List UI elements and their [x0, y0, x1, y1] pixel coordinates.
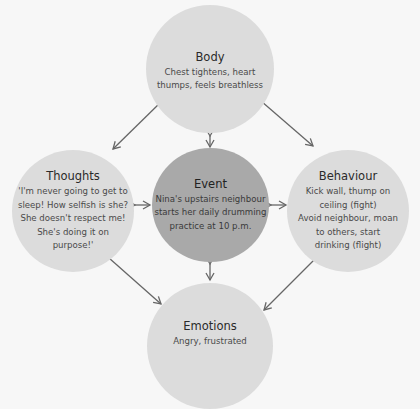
node-body: Body Chest tightens, heart thumps, feels… — [146, 5, 274, 133]
node-event-text: Nina's upstairs neighbour starts her dai… — [154, 193, 266, 234]
arrow-body-behaviour — [261, 101, 313, 146]
arrow-body-thoughts — [113, 100, 163, 149]
node-event-title: Event — [194, 177, 227, 191]
arrow-behaviour-emotions — [264, 258, 316, 310]
arrow-thoughts-emotions — [109, 258, 161, 304]
node-thoughts-text: 'I'm never going to get to sleep! How se… — [18, 185, 128, 253]
node-body-title: Body — [195, 50, 224, 64]
node-emotions: Emotions Angry, frustrated — [147, 283, 273, 409]
node-body-text: Chest tightens, heart thumps, feels brea… — [157, 66, 263, 93]
node-behaviour-text: Kick wall, thump on ceiling (fight) Avoi… — [298, 185, 398, 253]
node-thoughts: Thoughts 'I'm never going to get to slee… — [12, 150, 134, 272]
node-thoughts-title: Thoughts — [46, 169, 100, 183]
node-event: Event Nina's upstairs neighbour starts h… — [152, 148, 269, 262]
node-emotions-title: Emotions — [183, 319, 237, 333]
node-emotions-text: Angry, frustrated — [173, 335, 247, 349]
node-behaviour-title: Behaviour — [319, 169, 377, 183]
node-behaviour: Behaviour Kick wall, thump on ceiling (f… — [287, 150, 409, 272]
